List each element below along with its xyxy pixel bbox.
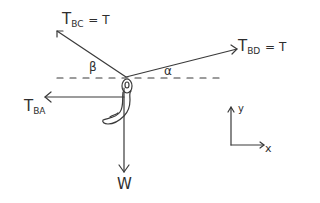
tbc-symbol: T: [62, 10, 71, 28]
tbd-symbol: T: [238, 37, 247, 55]
climber-sketch-icon: [103, 79, 132, 124]
tba-label: TBA: [24, 97, 46, 115]
tba-arrow: [45, 92, 124, 102]
tbd-subscript: BD: [247, 46, 260, 56]
x-axis-label: x: [265, 142, 272, 155]
weight-arrow: [119, 88, 129, 172]
tbc-equation: = T: [88, 13, 109, 27]
coordinate-axes: [228, 107, 264, 148]
alpha-angle-label: α: [164, 64, 172, 78]
weight-label: W: [117, 175, 132, 193]
tbd-equation: = T: [265, 40, 286, 54]
tba-symbol: T: [24, 97, 33, 115]
y-axis-label: y: [238, 103, 244, 114]
tbc-subscript: BC: [71, 19, 83, 29]
tbc-label: TBC = T: [62, 10, 109, 28]
beta-angle-label: β: [89, 60, 97, 74]
tbd-arrow: [126, 45, 237, 77]
tbd-label: TBD = T: [238, 37, 286, 55]
tba-subscript: BA: [33, 106, 45, 116]
